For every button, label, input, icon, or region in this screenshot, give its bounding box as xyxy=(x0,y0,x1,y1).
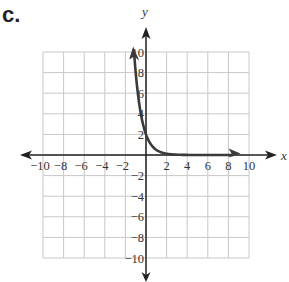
y-tick-label: −6 xyxy=(131,210,144,224)
x-tick-label: −2 xyxy=(116,159,129,173)
y-tick-label: −8 xyxy=(131,231,144,245)
x-tick-label: −10 xyxy=(30,159,50,173)
y-axis-label: y xyxy=(140,4,148,19)
x-axis-label: x xyxy=(280,148,287,163)
y-tick-label: 2 xyxy=(138,128,144,142)
y-tick-label: −4 xyxy=(131,190,145,204)
x-tick-label: 8 xyxy=(225,159,231,173)
y-tick-label: 8 xyxy=(138,66,144,80)
x-tick-label: 10 xyxy=(243,159,256,173)
coordinate-plane: −10−8−6−4−2246810108642−2−4−6−8−10 x y xyxy=(0,0,289,282)
x-tick-label: −8 xyxy=(54,159,67,173)
y-tick-label: −2 xyxy=(131,169,144,183)
x-tick-label: 4 xyxy=(184,159,191,173)
x-tick-label: −4 xyxy=(95,159,109,173)
x-tick-label: −6 xyxy=(75,159,88,173)
curve-right-arrow-icon xyxy=(229,149,241,158)
x-tick-label: 6 xyxy=(205,159,211,173)
x-tick-label: 2 xyxy=(163,159,169,173)
axes xyxy=(20,27,277,282)
exponential-curve xyxy=(134,54,233,155)
y-tick-label: −10 xyxy=(124,252,144,266)
